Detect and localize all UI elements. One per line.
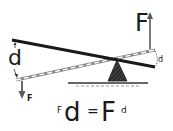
right-distance-label: d	[158, 55, 163, 64]
right-distance-marker	[155, 51, 157, 66]
effort-force-label: F	[135, 9, 149, 37]
load-force-label: F	[27, 94, 32, 103]
down-arrow-icon	[19, 81, 26, 99]
ground	[68, 83, 148, 86]
equation-left-big: d	[64, 97, 81, 127]
lever-diagram: F d d F F d = F d	[0, 0, 173, 131]
equation-left-small: F	[57, 105, 62, 115]
equation-right-small: d	[121, 105, 127, 115]
fulcrum	[108, 60, 127, 81]
equation-right-big: F	[101, 97, 116, 127]
left-distance-label: d	[8, 45, 22, 70]
equation-equals: =	[87, 103, 99, 119]
equation: F d = F d	[57, 97, 127, 127]
